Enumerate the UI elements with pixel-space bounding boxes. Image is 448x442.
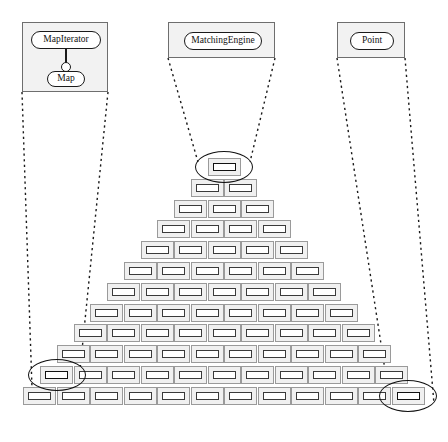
tree-node[interactable] bbox=[157, 345, 190, 363]
tree-node[interactable] bbox=[174, 200, 207, 218]
tree-node-inner bbox=[280, 329, 303, 337]
point-panel[interactable]: Point bbox=[337, 22, 405, 58]
tree-node[interactable] bbox=[325, 387, 358, 405]
tree-node[interactable] bbox=[358, 345, 391, 363]
tree-node[interactable] bbox=[157, 387, 190, 405]
tree-node[interactable] bbox=[325, 304, 358, 322]
tree-node[interactable] bbox=[57, 387, 90, 405]
tree-node[interactable] bbox=[208, 366, 241, 384]
tree-node[interactable] bbox=[74, 324, 107, 342]
tree-node[interactable] bbox=[157, 304, 190, 322]
callout-mapiterator bbox=[22, 92, 108, 388]
tree-node[interactable] bbox=[23, 387, 56, 405]
class-node-point[interactable]: Point bbox=[350, 32, 394, 50]
tree-node[interactable] bbox=[191, 179, 224, 197]
tree-node-inner bbox=[313, 329, 336, 337]
tree-node[interactable] bbox=[375, 366, 408, 384]
tree-node[interactable] bbox=[141, 366, 174, 384]
tree-node[interactable] bbox=[107, 366, 140, 384]
tree-node-inner bbox=[196, 184, 219, 192]
tree-node[interactable] bbox=[275, 283, 308, 301]
tree-node[interactable] bbox=[141, 241, 174, 259]
tree-node[interactable] bbox=[174, 366, 207, 384]
tree-node[interactable] bbox=[224, 345, 257, 363]
tree-node-inner bbox=[95, 392, 118, 400]
tree-node[interactable] bbox=[241, 324, 274, 342]
tree-node[interactable] bbox=[124, 262, 157, 280]
tree-node[interactable] bbox=[392, 387, 425, 405]
tree-node[interactable] bbox=[157, 262, 190, 280]
tree-node-inner bbox=[162, 350, 185, 358]
tree-node[interactable] bbox=[358, 387, 391, 405]
tree-node-inner bbox=[95, 309, 118, 317]
tree-node[interactable] bbox=[124, 345, 157, 363]
tree-node[interactable] bbox=[325, 345, 358, 363]
tree-node[interactable] bbox=[191, 262, 224, 280]
tree-node-inner bbox=[213, 163, 236, 171]
tree-node-inner bbox=[363, 350, 386, 358]
tree-node[interactable] bbox=[191, 304, 224, 322]
tree-node[interactable] bbox=[241, 366, 274, 384]
tree-node[interactable] bbox=[191, 387, 224, 405]
tree-node[interactable] bbox=[224, 262, 257, 280]
tree-node[interactable] bbox=[291, 304, 324, 322]
tree-node[interactable] bbox=[174, 324, 207, 342]
tree-node[interactable] bbox=[208, 324, 241, 342]
tree-node[interactable] bbox=[258, 387, 291, 405]
tree-node-inner bbox=[146, 329, 169, 337]
tree-node-inner bbox=[79, 371, 102, 379]
tree-node[interactable] bbox=[241, 200, 274, 218]
tree-node-inner bbox=[280, 288, 303, 296]
tree-node[interactable] bbox=[208, 283, 241, 301]
tree-node[interactable] bbox=[291, 387, 324, 405]
tree-node[interactable] bbox=[107, 283, 140, 301]
tree-node[interactable] bbox=[208, 158, 241, 176]
tree-node[interactable] bbox=[157, 220, 190, 238]
tree-node[interactable] bbox=[191, 220, 224, 238]
tree-node-inner bbox=[263, 267, 286, 275]
tree-node[interactable] bbox=[74, 366, 107, 384]
tree-node[interactable] bbox=[224, 220, 257, 238]
map-iterator-panel[interactable]: MapIterator Map bbox=[22, 22, 108, 92]
tree-node[interactable] bbox=[291, 345, 324, 363]
tree-node[interactable] bbox=[174, 241, 207, 259]
class-node-mapiterator[interactable]: MapIterator bbox=[31, 31, 101, 49]
matching-engine-panel[interactable]: MatchingEngine bbox=[168, 22, 275, 58]
tree-node[interactable] bbox=[308, 366, 341, 384]
tree-node[interactable] bbox=[90, 387, 123, 405]
tree-node[interactable] bbox=[224, 387, 257, 405]
tree-node[interactable] bbox=[107, 324, 140, 342]
tree-node[interactable] bbox=[258, 262, 291, 280]
tree-node[interactable] bbox=[40, 366, 73, 384]
tree-node[interactable] bbox=[275, 241, 308, 259]
tree-node[interactable] bbox=[308, 283, 341, 301]
tree-node[interactable] bbox=[224, 179, 257, 197]
tree-node[interactable] bbox=[124, 304, 157, 322]
tree-node[interactable] bbox=[191, 345, 224, 363]
tree-node[interactable] bbox=[90, 345, 123, 363]
tree-node[interactable] bbox=[57, 345, 90, 363]
tree-node[interactable] bbox=[174, 283, 207, 301]
tree-node[interactable] bbox=[224, 304, 257, 322]
tree-node[interactable] bbox=[141, 283, 174, 301]
tree-node-inner bbox=[162, 225, 185, 233]
tree-node[interactable] bbox=[141, 324, 174, 342]
tree-node[interactable] bbox=[258, 220, 291, 238]
class-node-matchingengine[interactable]: MatchingEngine bbox=[184, 32, 262, 50]
tree-node[interactable] bbox=[308, 324, 341, 342]
tree-node[interactable] bbox=[258, 304, 291, 322]
tree-node[interactable] bbox=[275, 324, 308, 342]
class-node-map[interactable]: Map bbox=[47, 71, 85, 87]
tree-node[interactable] bbox=[258, 345, 291, 363]
tree-node[interactable] bbox=[291, 262, 324, 280]
tree-node[interactable] bbox=[275, 366, 308, 384]
tree-node[interactable] bbox=[342, 366, 375, 384]
tree-node[interactable] bbox=[208, 241, 241, 259]
tree-node[interactable] bbox=[124, 387, 157, 405]
tree-node-inner bbox=[246, 205, 269, 213]
tree-node[interactable] bbox=[241, 283, 274, 301]
tree-node[interactable] bbox=[90, 304, 123, 322]
tree-node[interactable] bbox=[342, 324, 375, 342]
tree-node[interactable] bbox=[208, 200, 241, 218]
tree-node[interactable] bbox=[241, 241, 274, 259]
